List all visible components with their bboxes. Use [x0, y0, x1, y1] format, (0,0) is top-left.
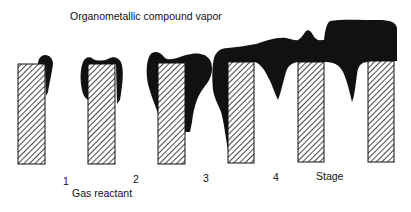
stage-number-3: 3	[203, 173, 209, 184]
pillar-3	[158, 63, 185, 164]
gas-reactant-label: Gas reactant	[72, 188, 132, 199]
pillar-5	[298, 62, 324, 162]
pillar-6	[368, 61, 394, 162]
pillar-1	[18, 64, 45, 164]
growth-stages-diagram: Organometallic compound vapor 1 2 3 4 St…	[0, 0, 411, 212]
pillar-2	[88, 64, 115, 164]
pillar-4	[228, 62, 254, 163]
stage-number-2: 2	[133, 174, 139, 185]
stage-number-4: 4	[273, 172, 279, 183]
stage-label: Stage	[316, 171, 343, 182]
stage-number-1: 1	[63, 176, 69, 187]
diagram-title: Organometallic compound vapor	[70, 11, 222, 22]
